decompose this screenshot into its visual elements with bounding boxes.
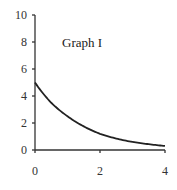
ticks: 0246810024 <box>15 8 168 178</box>
y-tick-label: 0 <box>21 143 27 157</box>
y-tick-label: 6 <box>21 62 27 76</box>
chart: 0246810024 Graph I <box>0 0 177 190</box>
y-tick-label: 8 <box>21 35 27 49</box>
data-line <box>35 83 165 146</box>
x-tick-label: 2 <box>97 164 103 178</box>
y-tick-label: 2 <box>21 116 27 130</box>
x-tick-label: 0 <box>32 164 38 178</box>
x-tick-label: 4 <box>162 164 168 178</box>
y-tick-label: 10 <box>15 8 27 22</box>
chart-title: Graph I <box>62 35 102 50</box>
y-tick-label: 4 <box>21 89 27 103</box>
